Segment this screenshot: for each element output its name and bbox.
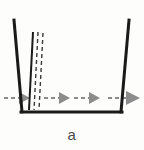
flow-arrow-3 — [74, 92, 100, 104]
flow-arrow-2-head — [59, 92, 70, 104]
dashed-front-inner-interface-line — [34, 32, 38, 110]
flow-arrow-2 — [44, 92, 70, 104]
dashed-front-outer-interface-line — [39, 33, 43, 110]
flow-arrow-3-head — [89, 92, 100, 104]
flow-arrow-1 — [4, 92, 30, 104]
figure-caption-label: a — [0, 126, 144, 144]
solid-front-interface-line — [29, 32, 33, 110]
flow-arrow-4-head — [126, 91, 140, 105]
flow-arrow-group — [4, 91, 140, 105]
interface-line-group — [29, 32, 43, 110]
figure-panel-a: a — [0, 0, 144, 150]
